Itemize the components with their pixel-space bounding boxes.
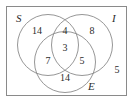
region-value-i-and-e: 5 [80,56,85,66]
set-label-s: S [16,13,22,24]
region-value-outside: 5 [115,65,120,75]
venn-diagram-figure: S I E 14 4 8 3 7 5 14 5 [0,0,135,104]
set-label-e: E [88,81,95,92]
set-circle-i [52,15,113,76]
region-value-s-only: 14 [32,26,42,36]
region-value-s-and-e: 7 [46,56,51,66]
region-value-s-and-i: 4 [63,26,68,36]
region-value-e-only: 14 [60,73,70,83]
set-circle-e [35,32,96,93]
set-label-i: I [112,13,116,24]
region-value-all-three: 3 [63,43,68,53]
set-circle-s [18,15,79,76]
region-value-i-only: 8 [90,26,95,36]
